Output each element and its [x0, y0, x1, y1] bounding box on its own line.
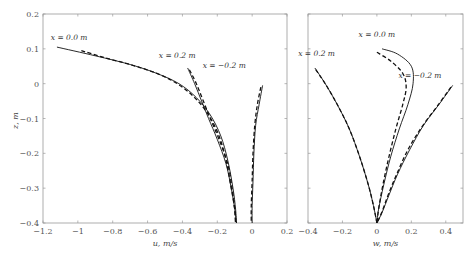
curve-annotation: x = 0.2 m: [298, 49, 335, 58]
dashed-curve: [81, 51, 235, 223]
x-tick-label: 0: [250, 227, 255, 236]
x-axis-label: w, m/s: [373, 239, 398, 248]
right-panel-w-profile: −0.4−0.200.20.4w, m/sx = 0.0 mx = 0.2 mx…: [298, 14, 463, 248]
solid-curve: [57, 47, 237, 223]
plot-frame: [43, 14, 287, 223]
x-tick-label: −0.4: [298, 227, 317, 236]
x-tick-label: 0.2: [281, 227, 294, 236]
curve-annotation: x = −0.2 m: [398, 71, 441, 80]
solid-curve: [377, 85, 453, 223]
dashed-curve: [377, 87, 451, 223]
curve-annotation: x = 0.0 m: [359, 30, 396, 39]
x-tick-label: 0.4: [439, 227, 452, 236]
y-tick-label: −0.1: [20, 115, 39, 124]
y-tick-label: 0: [34, 80, 39, 89]
x-tick-label: 0.2: [405, 227, 418, 236]
solid-curve: [252, 85, 263, 223]
y-tick-label: −0.3: [20, 184, 39, 193]
chart-figure: −1.2−1−0.8−0.6−0.4−0.200.20.20.10−0.1−0.…: [0, 0, 476, 256]
x-tick-label: −0.4: [173, 227, 192, 236]
curve-annotation: x = 0.0 m: [51, 33, 88, 42]
left-panel-u-profile: −1.2−1−0.8−0.6−0.4−0.200.20.20.10−0.1−0.…: [11, 10, 293, 248]
solid-curve: [315, 68, 377, 223]
plot-frame: [308, 14, 463, 223]
x-tick-label: 0: [374, 227, 379, 236]
x-tick-label: −1.2: [33, 227, 52, 236]
y-tick-label: −0.2: [20, 149, 39, 158]
curve-annotation: x = 0.2 m: [159, 51, 196, 60]
dashed-curve: [189, 70, 235, 223]
curve-annotation: x = −0.2 m: [203, 61, 246, 70]
y-tick-label: −0.4: [20, 219, 39, 228]
x-tick-label: −0.8: [103, 227, 122, 236]
dashed-curve: [316, 70, 377, 223]
x-axis-label: u, m/s: [153, 239, 178, 248]
y-tick-label: 0.1: [26, 45, 39, 54]
solid-curve: [188, 68, 237, 223]
x-tick-label: −0.2: [333, 227, 352, 236]
y-tick-label: 0.2: [26, 10, 39, 19]
x-tick-label: −0.2: [208, 227, 227, 236]
y-axis-label: z, m: [11, 112, 20, 130]
x-tick-label: −0.6: [138, 227, 157, 236]
x-tick-label: −1: [72, 227, 84, 236]
